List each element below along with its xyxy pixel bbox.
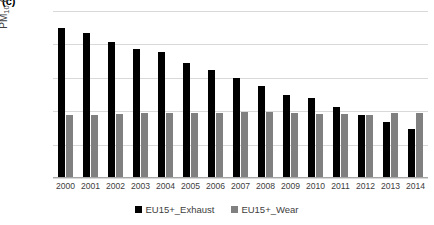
x-tick-label: 2006 xyxy=(206,181,225,191)
bar-exhaust xyxy=(233,78,240,178)
legend-swatch-icon xyxy=(135,206,142,213)
y-axis-title: PM10 (Gg/yr) xyxy=(0,0,11,50)
bar-group xyxy=(278,11,303,178)
bar-wear xyxy=(191,113,198,178)
y-axis-title-subscript: 10 xyxy=(2,5,11,13)
bar-wear xyxy=(366,115,373,178)
bar-group xyxy=(78,11,103,178)
bar-wear xyxy=(141,113,148,178)
x-tick-label: 2005 xyxy=(181,181,200,191)
bar-wear xyxy=(116,114,123,178)
bar-group xyxy=(328,11,353,178)
x-tick-label: 2008 xyxy=(256,181,275,191)
bar-wear xyxy=(291,113,298,178)
bar-group xyxy=(128,11,153,178)
bar-exhaust xyxy=(283,95,290,179)
x-tick-label: 2014 xyxy=(406,181,425,191)
bar-exhaust xyxy=(383,122,390,178)
bar-wear xyxy=(166,113,173,178)
x-tick-label: 2002 xyxy=(106,181,125,191)
x-tick-label: 2012 xyxy=(356,181,375,191)
bar-exhaust xyxy=(333,107,340,178)
bar-group xyxy=(103,11,128,178)
bar-exhaust xyxy=(133,49,140,178)
x-tick-label: 2000 xyxy=(56,181,75,191)
bar-wear xyxy=(91,115,98,178)
x-tick-label: 2013 xyxy=(381,181,400,191)
bar-wear xyxy=(66,115,73,178)
bar-wear xyxy=(266,112,273,178)
y-axis-title-main: PM xyxy=(0,14,9,29)
bar-wear xyxy=(341,114,348,178)
bar-exhaust xyxy=(158,52,165,178)
bar-wear xyxy=(416,113,423,178)
x-tick-label: 2010 xyxy=(306,181,325,191)
plot-area: 050100150200250 xyxy=(53,11,428,178)
legend-entry[interactable]: EU15+_Exhaust xyxy=(135,204,214,215)
x-axis-line xyxy=(53,177,428,178)
x-tick-label: 2003 xyxy=(131,181,150,191)
legend-label: EU15+_Wear xyxy=(241,204,298,215)
x-tick-label: 2011 xyxy=(331,181,349,191)
bar-group xyxy=(303,11,328,178)
bar-exhaust xyxy=(408,129,415,178)
legend-swatch-icon xyxy=(231,206,238,213)
bar-group xyxy=(53,11,78,178)
bar-wear xyxy=(316,114,323,178)
bar-wear xyxy=(216,113,223,178)
bar-wear xyxy=(241,112,248,178)
gridline-0 xyxy=(53,178,428,179)
bar-group xyxy=(378,11,403,178)
bar-exhaust xyxy=(183,63,190,178)
bar-exhaust xyxy=(308,98,315,178)
bar-group xyxy=(403,11,428,178)
pm10-emissions-bar-chart: (c) PM10 (Gg/yr) 050100150200250 2000200… xyxy=(0,0,434,225)
bar-group xyxy=(228,11,253,178)
bar-group xyxy=(353,11,378,178)
legend-entry[interactable]: EU15+_Wear xyxy=(231,204,298,215)
x-tick-label: 2004 xyxy=(156,181,175,191)
bar-group xyxy=(153,11,178,178)
bar-group xyxy=(253,11,278,178)
x-tick-label: 2007 xyxy=(231,181,250,191)
legend: EU15+_ExhaustEU15+_Wear xyxy=(0,204,434,215)
bar-exhaust xyxy=(208,70,215,178)
bar-wear xyxy=(391,113,398,178)
bar-exhaust xyxy=(108,42,115,178)
x-tick-label: 2001 xyxy=(81,181,100,191)
bar-exhaust xyxy=(358,115,365,178)
y-axis-title-units: (Gg/yr) xyxy=(0,0,9,5)
bar-exhaust xyxy=(258,86,265,178)
legend-label: EU15+_Exhaust xyxy=(145,204,214,215)
x-tick-label: 2009 xyxy=(281,181,300,191)
bar-exhaust xyxy=(58,28,65,178)
bar-group xyxy=(203,11,228,178)
bar-group xyxy=(178,11,203,178)
bar-exhaust xyxy=(83,33,90,178)
